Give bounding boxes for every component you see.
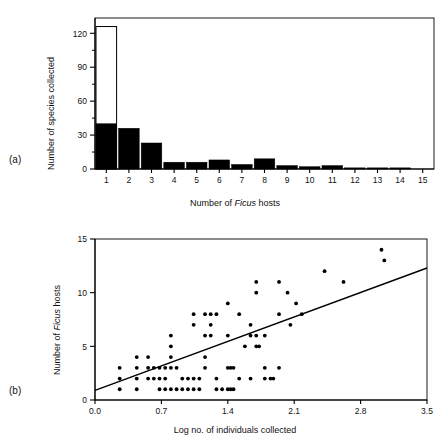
panel-a-xlabel-italic: Ficus [235, 198, 257, 208]
panel-a-ytick-label-30: 30 [78, 130, 88, 140]
panel-b-point [180, 387, 184, 391]
panel-a-ytick-label-60: 60 [78, 96, 88, 106]
panel-b-point [220, 387, 224, 391]
panel-b-ytick-label-10: 10 [78, 288, 88, 298]
panel-b-point [169, 366, 173, 370]
bar-4 [164, 162, 185, 169]
panel-b-point [249, 377, 253, 381]
panel-b-point [135, 366, 139, 370]
panel-b-point [169, 344, 173, 348]
bar-6 [209, 160, 230, 169]
panel-b-xtick-label-1.4: 1.4 [222, 406, 234, 416]
panel-b-point [163, 387, 167, 391]
panel-b-point [186, 377, 190, 381]
panel-b-point [300, 312, 304, 316]
panel-a-xtick-label-15: 15 [418, 175, 428, 185]
panel-b-point [294, 302, 298, 306]
panel-b-point [135, 355, 139, 359]
panel-b-point [158, 366, 162, 370]
panel-b-point [254, 291, 258, 295]
panel-b-xtick-label-0.7: 0.7 [155, 406, 167, 416]
panel-b-point [226, 334, 230, 338]
panel-b-point [380, 248, 384, 252]
panel-b-point [271, 377, 275, 381]
panel-a-xlabel: Number of Ficus hosts [120, 198, 350, 208]
panel-a-xtick-label-8: 8 [262, 175, 267, 185]
panel-b-point [237, 312, 241, 316]
panel-b-point [382, 259, 386, 263]
panel-b-point [254, 334, 258, 338]
panel-a-xtick-label-3: 3 [149, 175, 154, 185]
panel-b-point [152, 366, 156, 370]
panel-b-xtick-label-3.5: 3.5 [421, 406, 433, 416]
panel-b-point [237, 377, 241, 381]
panel-b-point [203, 334, 207, 338]
figure-container: (a) Number of species collected 03060901… [0, 0, 448, 444]
panel-b-point [197, 387, 201, 391]
panel-b-point [203, 355, 207, 359]
panel-b-point [169, 387, 173, 391]
panel-b-point [342, 280, 346, 284]
panel-b-point [175, 387, 179, 391]
panel-a-xtick-label-7: 7 [240, 175, 245, 185]
panel-b-point [135, 387, 139, 391]
panel-b-point [163, 377, 167, 381]
panel-b-point [286, 291, 290, 295]
panel-b-point [243, 344, 247, 348]
panel-b-point [180, 377, 184, 381]
panel-a-xtick-label-12: 12 [350, 175, 360, 185]
panel-a-ytick-label-0: 0 [82, 164, 87, 174]
panel-b-point [263, 334, 267, 338]
panel-b-xtick-label-2.1: 2.1 [288, 406, 300, 416]
panel-b-point [192, 323, 196, 327]
panel-b-point [203, 312, 207, 316]
panel-b-point [257, 344, 261, 348]
panel-a-xtick-label-4: 4 [172, 175, 177, 185]
panel-b-point [158, 377, 162, 381]
panel-b-point [209, 323, 213, 327]
bar-7 [232, 164, 253, 169]
panel-b-point [118, 377, 122, 381]
panel-b-point [249, 323, 253, 327]
panel-a-xtick-label-9: 9 [285, 175, 290, 185]
bar-2 [119, 128, 140, 169]
panel-b-point [215, 312, 219, 316]
panel-b-point [118, 387, 122, 391]
panel-b-point [146, 377, 150, 381]
bar-8 [254, 159, 275, 169]
panel-a-ytick-label-120: 120 [73, 29, 87, 39]
panel-a-xtick-label-14: 14 [395, 175, 405, 185]
panel-b-point [192, 312, 196, 316]
panel-b-point [215, 387, 219, 391]
panel-b-point [232, 387, 236, 391]
panel-b-point [277, 312, 281, 316]
panel-b-point [249, 334, 253, 338]
panel-b-point [263, 377, 267, 381]
panel-b-point [146, 355, 150, 359]
panel-b-point [169, 334, 173, 338]
panel-b-point [203, 366, 207, 370]
panel-b-point [192, 377, 196, 381]
panel-b-point [254, 280, 258, 284]
panel-a-xtick-label-13: 13 [373, 175, 383, 185]
panel-a-xtick-label-5: 5 [194, 175, 199, 185]
panel-a-xtick-label-11: 11 [328, 175, 337, 185]
panel-b-point [135, 377, 139, 381]
panel-b-ytick-label-15: 15 [78, 234, 88, 244]
bar-1 [96, 124, 117, 169]
panel-a-xtick-label-1: 1 [104, 175, 109, 185]
panel-a-xlabel-suffix: hosts [256, 198, 280, 208]
panel-b-fit-line [95, 268, 427, 390]
panel-b-point [158, 387, 162, 391]
panel-b-point [323, 269, 327, 273]
panel-b-point [289, 323, 293, 327]
panel-b-point [152, 377, 156, 381]
panel-a-xtick-label-2: 2 [127, 175, 132, 185]
panel-b-point [186, 387, 190, 391]
panel-b-point [226, 302, 230, 306]
panel-a-xlabel-prefix: Number of [190, 198, 235, 208]
panel-b-point [232, 366, 236, 370]
panel-b-ytick-label-5: 5 [82, 342, 87, 352]
panel-a-xtick-label-6: 6 [217, 175, 222, 185]
panel-b-xtick-label-0.0: 0.0 [89, 406, 101, 416]
